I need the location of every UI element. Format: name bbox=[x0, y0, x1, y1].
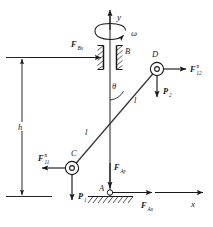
force-label-f11n-sup: n bbox=[45, 152, 48, 158]
force-label-fbx: F Bx bbox=[70, 40, 84, 51]
diagram-canvas: y ω bbox=[0, 0, 213, 227]
force-label-p2-sub: 2 bbox=[169, 92, 172, 98]
force-label-f11n-base: F bbox=[37, 154, 44, 163]
force-label-fbx-sub: Bx bbox=[78, 45, 84, 51]
force-label-p1: P 1 bbox=[78, 192, 87, 203]
force-label-fay-base: F bbox=[113, 163, 120, 172]
angle-arc-theta bbox=[110, 91, 124, 100]
force-label-f11n-sub: 11 bbox=[45, 159, 50, 165]
force-label-fax: F Ax bbox=[140, 201, 154, 212]
x-axis-label: x bbox=[190, 199, 195, 209]
node-label-c: C bbox=[71, 148, 77, 158]
dimension-line-h bbox=[6, 58, 52, 197]
force-label-f12n: F 12 n bbox=[189, 63, 202, 76]
dimension-label-h: h bbox=[18, 122, 22, 132]
force-label-fay: F Ay bbox=[113, 163, 126, 174]
force-label-f12n-sup: n bbox=[197, 63, 200, 69]
force-label-f11n: F 11 n bbox=[37, 152, 50, 165]
force-label-fax-base: F bbox=[140, 201, 147, 210]
force-label-p1-sub: 1 bbox=[84, 197, 87, 203]
free-body-diagram-figure: y ω bbox=[0, 0, 213, 227]
force-label-p2: P 2 bbox=[163, 87, 172, 98]
force-label-f12n-base: F bbox=[189, 65, 196, 74]
omega-label: ω bbox=[131, 28, 137, 38]
node-d bbox=[150, 62, 163, 75]
length-label-right: l bbox=[134, 95, 137, 105]
force-label-fbx-base: F bbox=[70, 40, 77, 49]
ground-support-a bbox=[88, 190, 133, 203]
y-axis-label: y bbox=[116, 12, 121, 22]
length-label-left: l bbox=[85, 127, 88, 137]
force-label-fay-sub: Ay bbox=[120, 168, 127, 174]
angle-label-theta: θ bbox=[112, 81, 116, 91]
node-c bbox=[65, 161, 78, 174]
node-label-b: B bbox=[125, 46, 130, 56]
node-label-a: A bbox=[98, 183, 105, 193]
force-label-fax-sub: Ax bbox=[147, 206, 154, 212]
node-label-d: D bbox=[151, 49, 159, 59]
force-label-f12n-sub: 12 bbox=[197, 70, 203, 76]
